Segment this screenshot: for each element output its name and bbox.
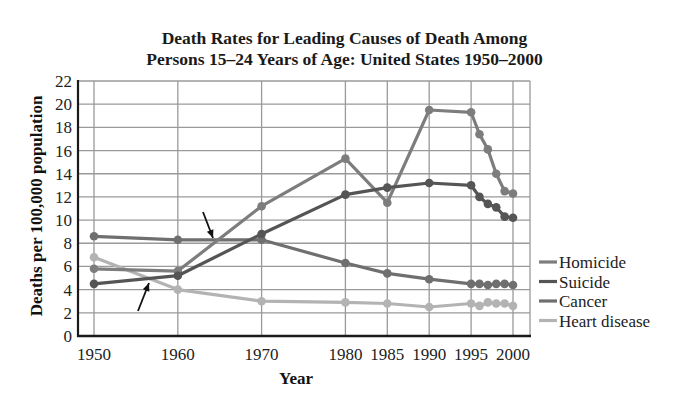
data-point — [425, 303, 434, 312]
line-chart: 0246810121416182022195019601970198019851… — [0, 0, 689, 396]
chart-series — [90, 106, 518, 312]
x-tick-label: 1960 — [161, 345, 195, 364]
data-point — [509, 213, 518, 222]
x-tick-label: 1985 — [370, 345, 404, 364]
y-tick-label: 6 — [64, 257, 73, 276]
legend-label: Homicide — [559, 253, 626, 272]
data-point — [383, 198, 392, 207]
data-point — [467, 181, 476, 190]
data-point — [257, 297, 266, 306]
data-point — [475, 130, 484, 139]
data-point — [484, 298, 493, 307]
y-axis-label: Deaths per 100,000 population — [27, 95, 46, 316]
data-point — [475, 302, 484, 311]
legend-label: Heart disease — [559, 312, 650, 331]
legend-label: Suicide — [559, 273, 610, 292]
y-tick-label: 20 — [55, 95, 72, 114]
data-point — [500, 212, 509, 221]
x-tick-label: 1990 — [412, 345, 446, 364]
y-tick-label: 0 — [64, 327, 73, 346]
data-point — [484, 281, 493, 290]
legend-label: Cancer — [559, 292, 607, 311]
data-point — [484, 200, 493, 209]
data-point — [174, 271, 183, 280]
x-tick-label: 1980 — [328, 345, 362, 364]
data-point — [425, 275, 434, 284]
x-tick-label: 1970 — [245, 345, 279, 364]
y-tick-label: 12 — [55, 188, 72, 207]
data-point — [341, 298, 350, 307]
data-point — [383, 299, 392, 308]
data-point — [500, 280, 509, 289]
data-point — [257, 202, 266, 211]
data-point — [467, 299, 476, 308]
x-tick-label: 1995 — [454, 345, 488, 364]
data-point — [174, 235, 183, 244]
y-tick-label: 14 — [55, 165, 73, 184]
legend-item-suicide: Suicide — [539, 273, 610, 292]
data-point — [174, 285, 183, 294]
y-tick-label: 4 — [64, 281, 73, 300]
y-tick-label: 10 — [55, 211, 72, 230]
data-point — [383, 183, 392, 192]
data-point — [341, 154, 350, 163]
data-point — [90, 264, 99, 273]
arrow-icon — [138, 283, 149, 311]
data-point — [509, 302, 518, 311]
data-point — [90, 232, 99, 241]
data-point — [90, 253, 99, 262]
data-point — [467, 280, 476, 289]
y-tick-label: 18 — [55, 118, 72, 137]
y-tick-label: 2 — [64, 304, 73, 323]
legend-item-cancer: Cancer — [539, 292, 607, 311]
data-point — [467, 108, 476, 117]
data-point — [257, 230, 266, 239]
arrow-icon — [203, 212, 213, 238]
chart-annotations — [138, 212, 213, 311]
y-tick-label: 16 — [55, 142, 72, 161]
data-point — [341, 259, 350, 268]
data-point — [484, 145, 493, 154]
data-point — [475, 193, 484, 202]
data-point — [492, 169, 501, 178]
data-point — [500, 187, 509, 196]
data-point — [425, 179, 434, 188]
data-point — [492, 280, 501, 289]
data-point — [500, 299, 509, 308]
y-tick-label: 22 — [55, 72, 72, 91]
chart-legend: HomicideSuicideCancerHeart disease — [539, 253, 650, 331]
x-tick-label: 1950 — [77, 345, 111, 364]
y-tick-label: 8 — [64, 234, 73, 253]
legend-item-homicide: Homicide — [539, 253, 626, 272]
data-point — [425, 106, 434, 115]
data-point — [341, 190, 350, 199]
data-point — [90, 280, 99, 289]
data-point — [492, 299, 501, 308]
data-point — [492, 203, 501, 212]
x-axis-label: Year — [279, 369, 313, 388]
data-point — [509, 281, 518, 290]
x-tick-label: 2000 — [496, 345, 530, 364]
data-point — [475, 280, 484, 289]
chart-axes — [77, 80, 531, 337]
chart-grid — [78, 81, 530, 336]
data-point — [383, 269, 392, 278]
data-point — [509, 189, 518, 198]
legend-item-heart-disease: Heart disease — [539, 312, 650, 331]
